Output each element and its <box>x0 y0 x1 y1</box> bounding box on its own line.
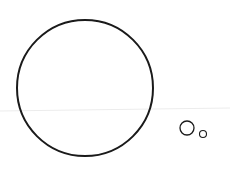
tiny-circle <box>200 131 207 138</box>
horizontal-guide-line <box>0 108 230 111</box>
medium-small-circle <box>180 121 194 135</box>
circles-diagram <box>0 0 230 173</box>
large-circle <box>17 20 153 156</box>
